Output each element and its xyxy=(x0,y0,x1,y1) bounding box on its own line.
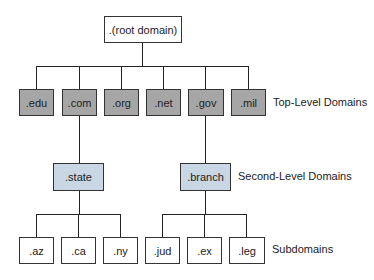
connector-ca xyxy=(78,214,79,237)
connector-branch-down xyxy=(205,190,206,214)
connector-ny xyxy=(120,214,121,237)
connector-gov-to-branch xyxy=(205,116,206,163)
connector-net xyxy=(163,66,164,89)
connector-com xyxy=(79,66,80,89)
level-label-subdomains: Subdomains xyxy=(272,243,333,255)
connector-ex xyxy=(204,214,205,237)
subdomain-node-ex: .ex xyxy=(187,237,222,264)
subdomain-node-ny: .ny xyxy=(103,237,138,264)
connector-az xyxy=(36,214,37,237)
subdomain-node-leg: .leg xyxy=(229,237,265,264)
tld-node-com: .com xyxy=(62,89,97,116)
tld-node-net: .net xyxy=(146,89,181,116)
connector-leg xyxy=(246,214,247,237)
connector-edu xyxy=(36,66,37,89)
connector-root-down xyxy=(142,42,143,66)
tld-node-edu: .edu xyxy=(19,89,54,116)
connector-org xyxy=(121,66,122,89)
connector-mil xyxy=(248,66,249,89)
root-domain-node: .(root domain) xyxy=(104,16,182,43)
connector-com-to-state xyxy=(79,116,80,163)
connector-state-down xyxy=(79,190,80,214)
connector-gov xyxy=(205,66,206,89)
connector-jud xyxy=(162,214,163,237)
tld-node-gov: .gov xyxy=(188,89,224,116)
connector-tld-bar xyxy=(36,66,248,67)
subdomain-node-ca: .ca xyxy=(61,237,96,264)
sld-node-branch: .branch xyxy=(180,163,231,191)
subdomain-node-az: .az xyxy=(19,237,54,264)
level-label-top-level: Top-Level Domains xyxy=(273,96,367,108)
tld-node-org: .org xyxy=(104,89,139,116)
sld-node-state: .state xyxy=(53,163,104,191)
level-label-second-level: Second-Level Domains xyxy=(238,170,352,182)
subdomain-node-jud: .jud xyxy=(145,237,180,264)
tld-node-mil: .mil xyxy=(231,89,266,116)
